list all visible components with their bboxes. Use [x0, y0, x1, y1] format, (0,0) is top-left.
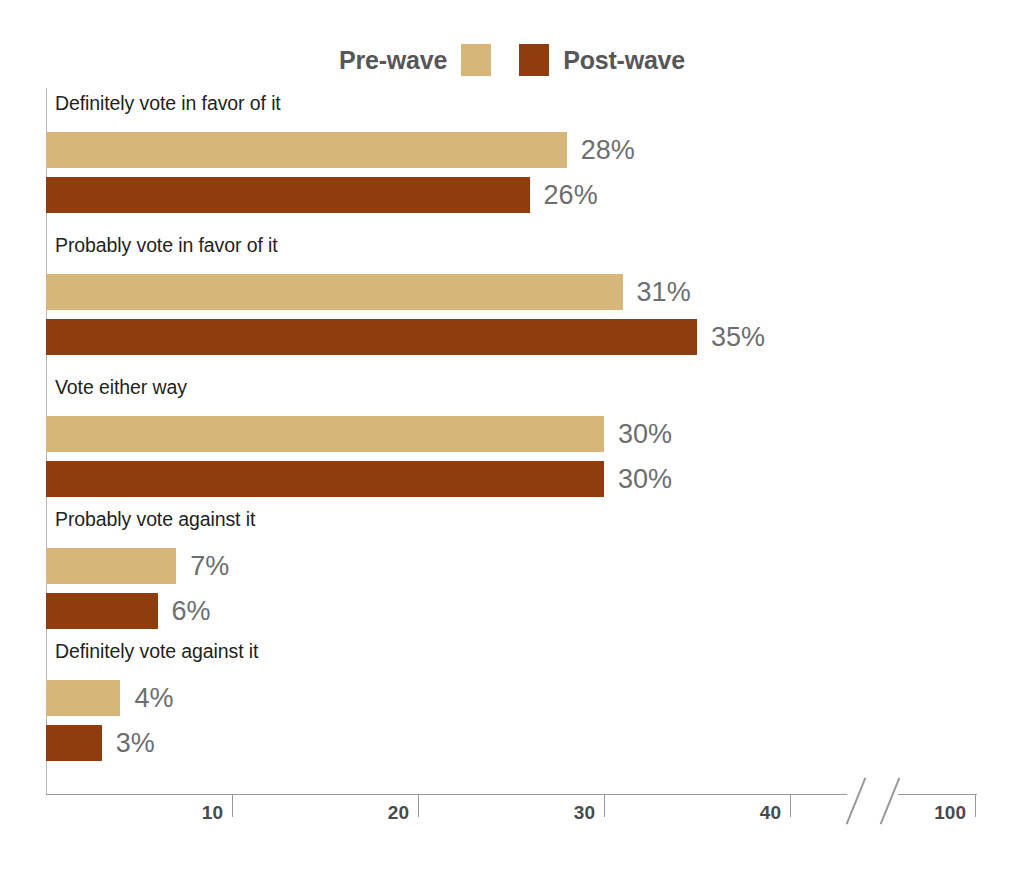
- bar-post-wave[interactable]: [46, 461, 604, 497]
- bar-row: 30%: [46, 416, 977, 452]
- bar-value-label: 4%: [134, 683, 173, 714]
- bar-post-wave[interactable]: [46, 319, 697, 355]
- x-axis-tick-label: 20: [388, 802, 418, 824]
- x-axis-tick-label: 40: [760, 802, 790, 824]
- bar-group-label: Definitely vote against it: [55, 640, 258, 663]
- chart-legend: Pre-wave Post-wave: [0, 38, 1024, 82]
- bar-row: 35%: [46, 319, 977, 355]
- x-axis-tick-label: 100: [934, 802, 975, 824]
- bar-value-label: 35%: [711, 322, 765, 353]
- bar-pre-wave[interactable]: [46, 548, 176, 584]
- x-axis-tick-mark: [975, 795, 976, 817]
- legend-label-post-wave: Post-wave: [563, 46, 685, 75]
- bar-pre-wave[interactable]: [46, 416, 604, 452]
- bar-row: 4%: [46, 680, 977, 716]
- bar-value-label: 28%: [581, 135, 635, 166]
- bar-row: 3%: [46, 725, 977, 761]
- bar-value-label: 30%: [618, 419, 672, 450]
- bar-row: 31%: [46, 274, 977, 310]
- axis-break-slash-icon: [880, 777, 901, 824]
- bar-post-wave[interactable]: [46, 177, 530, 213]
- x-axis-tick-label: 30: [574, 802, 604, 824]
- x-axis-tick-mark: [418, 795, 419, 817]
- legend-swatch-pre-wave: [461, 44, 491, 76]
- legend-swatch-post-wave: [519, 44, 549, 76]
- bar-pre-wave[interactable]: [46, 680, 120, 716]
- bar-row: 7%: [46, 548, 977, 584]
- bar-group-label: Probably vote against it: [55, 508, 255, 531]
- bar-value-label: 6%: [172, 596, 211, 627]
- legend-label-pre-wave: Pre-wave: [339, 46, 447, 75]
- bar-row: 30%: [46, 461, 977, 497]
- bar-row: 26%: [46, 177, 977, 213]
- bar-post-wave[interactable]: [46, 725, 102, 761]
- bar-value-label: 30%: [618, 464, 672, 495]
- bar-group-label: Vote either way: [55, 376, 187, 399]
- x-axis-line: [46, 794, 977, 795]
- x-axis-tick-mark: [232, 795, 233, 817]
- axis-break-slash-icon: [846, 777, 867, 824]
- bar-value-label: 3%: [116, 728, 155, 759]
- bar-chart-plot-area: Definitely vote in favor of it28%26%Prob…: [46, 88, 977, 794]
- bar-pre-wave[interactable]: [46, 132, 567, 168]
- bar-group-label: Definitely vote in favor of it: [55, 92, 281, 115]
- x-axis-tick-label: 10: [202, 802, 232, 824]
- bar-row: 6%: [46, 593, 977, 629]
- bar-group-label: Probably vote in favor of it: [55, 234, 278, 257]
- bar-value-label: 31%: [637, 277, 691, 308]
- x-axis-tick-mark: [790, 795, 791, 817]
- bar-post-wave[interactable]: [46, 593, 158, 629]
- bar-row: 28%: [46, 132, 977, 168]
- x-axis-tick-mark: [604, 795, 605, 817]
- bar-value-label: 26%: [544, 180, 598, 211]
- bar-value-label: 7%: [190, 551, 229, 582]
- bar-pre-wave[interactable]: [46, 274, 623, 310]
